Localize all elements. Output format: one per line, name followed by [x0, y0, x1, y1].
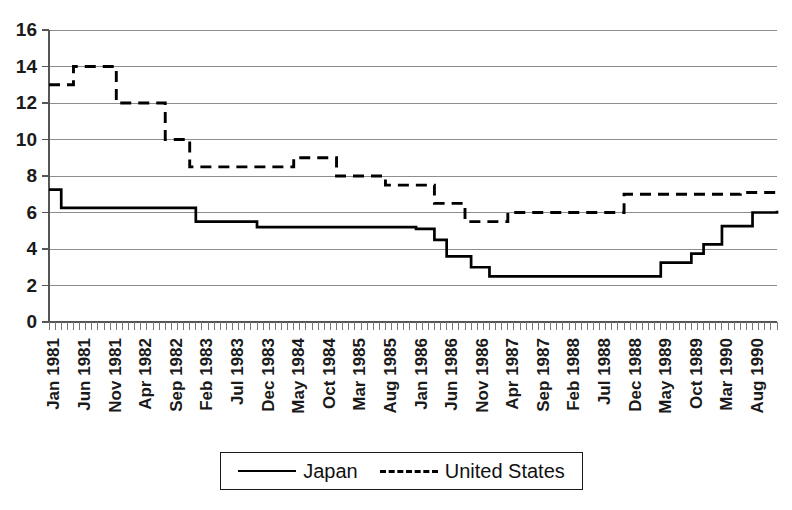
y-axis-tick-label: 14: [16, 56, 38, 77]
series-line-japan: [49, 190, 777, 277]
x-axis-tick-label: Feb 1988: [564, 338, 583, 411]
x-axis-tick-label: Dec 1988: [626, 338, 645, 412]
legend-label-united-states: United States: [445, 461, 565, 481]
y-axis-tick-label: 10: [16, 129, 37, 150]
x-axis-tick-label: Jun 1986: [442, 338, 461, 411]
legend-label-japan: Japan: [303, 461, 358, 481]
x-axis-tick-label: Mar 1985: [350, 338, 369, 411]
legend-swatch-dashed-line-icon: [380, 470, 438, 473]
series-line-united-states: [49, 67, 777, 222]
chart-legend: Japan United States: [220, 452, 583, 490]
x-axis-tick-label: Sep 1987: [534, 338, 553, 412]
x-axis-tick-label: Jun 1981: [75, 338, 94, 411]
x-axis-tick-label: Jul 1988: [595, 338, 614, 405]
x-axis-tick-label: Jul 1983: [228, 338, 247, 405]
x-axis-tick-label: Oct 1989: [687, 338, 706, 409]
y-axis-tick-label: 12: [16, 92, 37, 113]
y-axis-tick-label: 4: [26, 238, 37, 259]
y-axis-tick-label: 8: [26, 165, 37, 186]
y-axis-tick-label: 0: [26, 311, 37, 332]
legend-swatch-solid-line-icon: [238, 470, 296, 472]
x-axis-tick-label: Aug 1985: [381, 338, 400, 414]
x-axis-tick-label: Aug 1990: [748, 338, 767, 414]
x-axis-tick-label: Nov 1986: [473, 338, 492, 413]
chart-figure: 0246810121416Jan 1981Jun 1981Nov 1981Apr…: [0, 0, 792, 510]
x-axis-tick-label: Feb 1983: [197, 338, 216, 411]
y-axis-tick-label: 16: [16, 19, 37, 40]
x-axis-tick-label: May 1989: [656, 338, 675, 414]
legend-entry-japan: Japan: [238, 461, 358, 481]
x-axis-tick-label: Nov 1981: [106, 338, 125, 413]
x-axis-tick-label: Apr 1982: [136, 338, 155, 410]
x-axis-tick-label: Oct 1984: [320, 337, 339, 408]
x-axis-tick-label: Apr 1987: [503, 338, 522, 410]
x-axis-tick-label: Dec 1983: [259, 338, 278, 412]
y-axis-tick-label: 6: [26, 202, 37, 223]
x-axis-tick-label: Jan 1981: [44, 338, 63, 410]
legend-entry-united-states: United States: [380, 461, 565, 481]
line-chart-plot: 0246810121416Jan 1981Jun 1981Nov 1981Apr…: [0, 0, 792, 510]
x-axis-tick-label: Mar 1990: [717, 338, 736, 411]
x-axis-tick-label: Jan 1986: [412, 338, 431, 410]
x-axis-tick-label: Sep 1982: [167, 338, 186, 412]
y-axis-tick-label: 2: [26, 275, 37, 296]
x-axis-tick-label: May 1984: [289, 337, 308, 413]
